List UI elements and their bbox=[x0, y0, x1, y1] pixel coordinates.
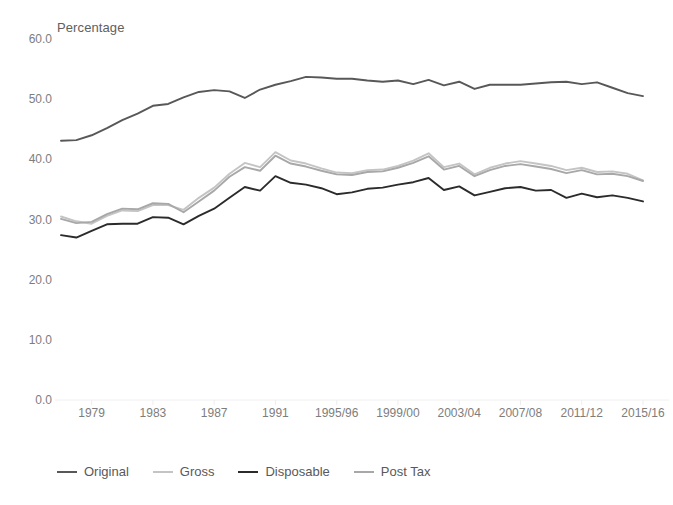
x-axis-tick-label: 2015/16 bbox=[621, 406, 664, 420]
legend-item-gross[interactable]: Gross bbox=[153, 464, 215, 479]
x-axis-tick-label: 1991 bbox=[262, 406, 289, 420]
x-axis-tick-label: 2011/12 bbox=[560, 406, 603, 420]
x-axis-tick-label: 1979 bbox=[78, 406, 105, 420]
legend-item-post-tax[interactable]: Post Tax bbox=[354, 464, 431, 479]
legend-item-original[interactable]: Original bbox=[57, 464, 129, 479]
chart-legend: OriginalGrossDisposablePost Tax bbox=[57, 464, 430, 479]
chart-plot-area bbox=[0, 0, 673, 505]
legend-line-icon bbox=[238, 471, 258, 473]
legend-line-icon bbox=[354, 471, 374, 473]
x-axis-tick-label: 1995/96 bbox=[315, 406, 358, 420]
legend-item-label: Disposable bbox=[265, 464, 329, 479]
chart-container: Percentage 0.010.020.030.040.050.060.0 1… bbox=[0, 0, 673, 505]
series-line-original bbox=[61, 77, 643, 141]
x-axis-tick-label: 1983 bbox=[140, 406, 167, 420]
legend-line-icon bbox=[57, 471, 77, 473]
legend-item-label: Original bbox=[84, 464, 129, 479]
legend-item-disposable[interactable]: Disposable bbox=[238, 464, 329, 479]
legend-item-label: Gross bbox=[180, 464, 215, 479]
x-axis-tick-labels: 19791983198719911995/961999/002003/04200… bbox=[0, 398, 673, 422]
x-axis-tick-label: 1987 bbox=[201, 406, 228, 420]
series-line-post-tax bbox=[61, 156, 643, 223]
x-axis-tick-label: 1999/00 bbox=[376, 406, 419, 420]
legend-line-icon bbox=[153, 471, 173, 473]
legend-item-label: Post Tax bbox=[381, 464, 431, 479]
series-line-gross bbox=[61, 152, 643, 224]
x-axis-tick-label: 2007/08 bbox=[499, 406, 542, 420]
x-axis-tick-label: 2003/04 bbox=[438, 406, 481, 420]
